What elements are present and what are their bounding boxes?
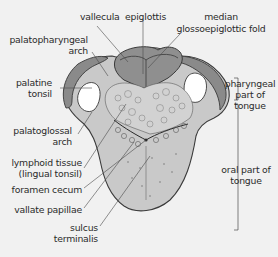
label-lymphoid-2: (lingual tonsil) <box>0 168 82 179</box>
label-palatine-tonsil-2: tonsil <box>0 88 52 99</box>
label-median-fold-2: glossoepiglottic fold <box>166 23 276 34</box>
label-pharyngeal-part-1: pharyngeal <box>222 78 278 89</box>
label-lymphoid-1: lymphoid tissue <box>0 157 82 168</box>
label-palatoglossal-2: arch <box>0 136 72 147</box>
label-palatoglossal-1: palatoglossal <box>0 125 72 136</box>
label-pharyngeal-part-2: part of <box>222 89 278 100</box>
label-oral-part-2: tongue <box>214 175 278 186</box>
label-epiglottis: epiglottis <box>125 11 166 22</box>
label-sulcus-2: terminalis <box>0 233 98 244</box>
label-palatopharyngeal-1: palatopharyngeal <box>0 34 88 45</box>
label-foramen-cecum: foramen cecum <box>0 184 82 195</box>
label-pharyngeal-part-3: tongue <box>222 100 278 111</box>
label-palatine-tonsil-1: palatine <box>0 77 52 88</box>
label-sulcus-1: sulcus <box>0 222 98 233</box>
label-median-fold-1: median <box>166 11 276 22</box>
label-vallecula: vallecula <box>80 11 120 22</box>
label-palatopharyngeal-2: arch <box>0 45 88 56</box>
label-vallate-papillae: vallate papillae <box>0 204 82 215</box>
label-oral-part-1: oral part of <box>214 164 278 175</box>
